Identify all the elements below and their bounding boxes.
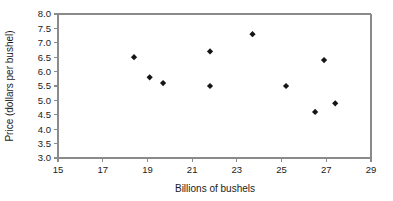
y-tick-label: 8.0 [38, 8, 51, 19]
y-axis-label: Price (dollars per bushel) [4, 30, 15, 141]
data-point-marker [207, 83, 213, 89]
y-tick-label: 4.5 [38, 109, 51, 120]
data-point-marker [131, 54, 137, 60]
y-tick-label: 6.5 [38, 52, 51, 63]
x-tick-label: 27 [321, 164, 332, 175]
data-point-marker [332, 100, 338, 106]
x-tick-label: 17 [97, 164, 108, 175]
x-axis-label: Billions of bushels [175, 183, 255, 194]
y-tick-label: 7.0 [38, 37, 51, 48]
x-tick-label: 15 [53, 164, 64, 175]
axes-group [58, 14, 371, 158]
scatter-plot-figure: 1517192123252729 3.03.54.04.55.05.56.06.… [0, 0, 393, 201]
x-tick-label: 29 [366, 164, 377, 175]
axis-lines [58, 14, 371, 158]
data-point-marker [147, 74, 153, 80]
y-tick-label: 5.5 [38, 80, 51, 91]
x-tick-label: 21 [187, 164, 198, 175]
y-axis-ticks: 3.03.54.04.55.05.56.06.57.07.58.0 [38, 8, 58, 163]
plot-canvas: 1517192123252729 3.03.54.04.55.05.56.06.… [0, 0, 393, 201]
data-point-marker [283, 83, 289, 89]
data-point-marker [312, 109, 318, 115]
data-point-marker [321, 57, 327, 63]
y-tick-label: 6.0 [38, 66, 51, 77]
y-tick-label: 7.5 [38, 23, 51, 34]
data-point-marker [249, 31, 255, 37]
y-tick-label: 3.0 [38, 152, 51, 163]
y-tick-label: 4.0 [38, 124, 51, 135]
data-point-marker [160, 80, 166, 86]
y-tick-label: 3.5 [38, 138, 51, 149]
x-tick-label: 23 [232, 164, 243, 175]
y-tick-label: 5.0 [38, 95, 51, 106]
x-tick-label: 19 [142, 164, 153, 175]
x-tick-label: 25 [276, 164, 287, 175]
x-axis-ticks: 1517192123252729 [53, 158, 377, 175]
data-point-marker [207, 48, 213, 54]
data-points-group [131, 31, 338, 115]
